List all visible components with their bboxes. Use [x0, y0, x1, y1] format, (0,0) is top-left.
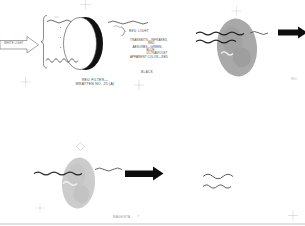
- figure-caption: RED FILTER— WRATTEN NO. 25 (A): [60, 78, 130, 87]
- cutoff-edge-label: RED: [291, 77, 297, 81]
- wavelength-dot: [60, 47, 61, 48]
- long-wavelength-wave: [203, 174, 233, 179]
- short-wavelength-wave: [203, 185, 231, 188]
- page-edge-strip: [0, 223, 305, 226]
- figure-artwork: [0, 0, 305, 225]
- filter-properties-list: TRANSMITS—INFRARED, RED ABSORBS—GREEN, B…: [130, 39, 168, 59]
- wavelength-dot: [60, 37, 61, 38]
- property-line: APPARENT COLOR—RED: [130, 56, 168, 59]
- chevron-right-icon: ›: [138, 213, 140, 218]
- white-light-label: WHITE LIGHT: [4, 42, 24, 45]
- filter-figure-page: WHITE LIGHT RED LIGHT TRANSMITS—INFRARED…: [0, 0, 305, 225]
- registration-cross-icon: [288, 211, 298, 221]
- black-label: BLACK: [141, 70, 153, 74]
- light-gray-filter-disk: [60, 156, 96, 209]
- red-filter-lens: [64, 18, 97, 70]
- black-arrow-right: [125, 167, 164, 181]
- registration-cross-icon: [21, 77, 31, 87]
- right-brace: [122, 28, 126, 36]
- outgoing-red-wave: [108, 21, 148, 24]
- registration-cross-icon: [81, 0, 91, 10]
- red-light-label: RED LIGHT: [129, 29, 149, 33]
- magenta-caption: MAGENTA: [113, 215, 130, 219]
- diamond-mark-icon: [77, 143, 85, 151]
- wavelength-dot: [60, 27, 61, 28]
- caption-line-2: WRATTEN NO. 25 (A): [60, 82, 130, 86]
- transmitted-wave: [95, 168, 122, 171]
- gray-filter-disk: [215, 17, 260, 78]
- small-tilde-wave: [114, 26, 122, 28]
- black-arrow-right: [278, 27, 305, 39]
- registration-cross-icon: [232, 6, 242, 16]
- registration-cross-icon: [35, 203, 45, 213]
- registration-cross-icon: [134, 80, 144, 90]
